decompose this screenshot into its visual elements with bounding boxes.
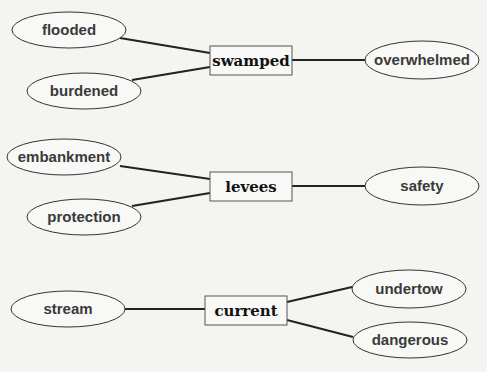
word-label: undertow [375, 280, 443, 297]
cluster-swamped: floodedburdenedoverwhelmedswamped [12, 12, 479, 109]
word-label: protection [47, 208, 120, 225]
word-node-embankment: embankment [7, 139, 121, 175]
connector-line [132, 67, 210, 80]
word-label: safety [400, 177, 444, 194]
connector-line [287, 320, 353, 337]
word-node-undertow: undertow [352, 270, 466, 308]
word-label: stream [43, 300, 92, 317]
center-word-swamped: swamped [210, 46, 292, 75]
word-label: overwhelmed [374, 51, 470, 68]
connector-line [120, 166, 210, 179]
word-web-diagram: floodedburdenedoverwhelmedswampedembankm… [0, 0, 487, 372]
center-word-label: current [214, 302, 277, 320]
word-label: flooded [42, 21, 96, 38]
connector-line [120, 38, 210, 53]
center-word-levees: levees [210, 172, 292, 201]
word-node-burdened: burdened [27, 73, 141, 109]
word-node-stream: stream [11, 291, 125, 327]
center-word-label: levees [225, 178, 277, 196]
word-node-safety: safety [365, 167, 479, 205]
word-node-overwhelmed: overwhelmed [365, 41, 479, 79]
word-node-dangerous: dangerous [353, 322, 467, 358]
center-word-current: current [205, 296, 287, 325]
connector-line [287, 287, 352, 302]
word-label: embankment [18, 148, 111, 165]
word-label: burdened [50, 82, 118, 99]
word-node-flooded: flooded [12, 12, 126, 48]
center-word-label: swamped [212, 52, 290, 70]
cluster-current: streamundertowdangerouscurrent [11, 270, 467, 358]
connector-line [132, 193, 210, 206]
word-label: dangerous [372, 331, 449, 348]
cluster-levees: embankmentprotectionsafetylevees [7, 139, 479, 235]
word-node-protection: protection [27, 199, 141, 235]
